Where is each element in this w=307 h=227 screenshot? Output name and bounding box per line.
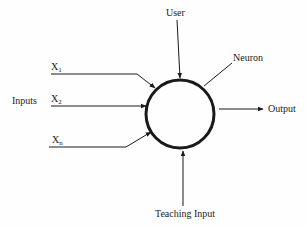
input-xn-arrow	[49, 132, 151, 147]
user-arrow	[177, 20, 180, 78]
diagram-graphics	[0, 0, 307, 227]
inputs-group-label: Inputs	[12, 96, 37, 106]
input-x1-label: X1	[51, 62, 62, 75]
input-xn-label: Xn	[52, 135, 63, 148]
input-x2-label: X2	[51, 94, 62, 107]
input-x1-arrow	[51, 74, 155, 88]
teaching-input-label: Teaching Input	[155, 209, 215, 219]
input-x1-subscript: 1	[58, 66, 62, 74]
user-label: User	[166, 8, 185, 18]
input-xn-subscript: n	[59, 139, 63, 147]
neuron-label: Neuron	[233, 53, 263, 63]
neuron-pointer-line	[204, 63, 232, 86]
input-x2-subscript: 2	[58, 98, 62, 106]
output-label: Output	[268, 104, 296, 114]
neuron-diagram: User Neuron X1 Inputs X2 Xn Output Teach…	[0, 0, 307, 227]
neuron-circle	[146, 80, 214, 148]
